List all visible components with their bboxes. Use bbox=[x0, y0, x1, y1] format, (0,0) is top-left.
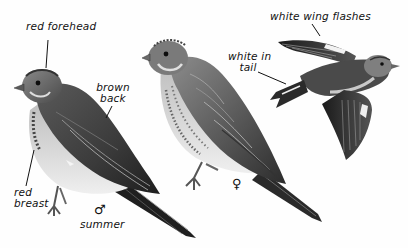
flying-linnet bbox=[270, 40, 400, 160]
male-symbol: ♂ bbox=[94, 203, 106, 216]
white-in-tail-pointer bbox=[258, 72, 286, 84]
red-breast-pointer bbox=[26, 150, 34, 186]
label-white-in-tail: white in tail bbox=[228, 51, 268, 73]
illustration-canvas bbox=[0, 0, 408, 248]
label-brown-back: brown back bbox=[96, 82, 130, 104]
linnet-plate: red forehead brown back red breast ♂ sum… bbox=[0, 0, 408, 248]
label-white-in-tail-line2: tail bbox=[228, 62, 268, 73]
white-wing-flashes-pointer bbox=[312, 24, 320, 36]
brown-back-pointer bbox=[106, 106, 112, 118]
female-symbol: ♀ bbox=[232, 177, 242, 190]
label-white-wing-flashes: white wing flashes bbox=[270, 11, 371, 22]
red-forehead-pointer bbox=[46, 40, 48, 68]
label-red-forehead: red forehead bbox=[26, 21, 96, 32]
label-brown-back-line2: back bbox=[96, 93, 130, 104]
label-summer: summer bbox=[80, 219, 125, 230]
label-red-breast-line2: breast bbox=[14, 198, 49, 209]
label-red-breast: red breast bbox=[14, 187, 49, 209]
